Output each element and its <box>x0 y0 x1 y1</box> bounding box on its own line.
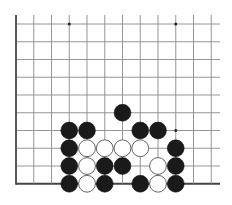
black-stone <box>132 122 149 139</box>
black-stone <box>79 122 96 139</box>
black-stone <box>61 140 78 157</box>
star-point-marker <box>174 129 177 132</box>
black-stone <box>167 175 184 192</box>
white-stone <box>79 175 96 192</box>
star-point-marker <box>68 23 71 26</box>
black-stone <box>132 175 149 192</box>
white-stone <box>150 175 167 192</box>
black-stone <box>96 158 113 175</box>
white-stone <box>79 140 96 157</box>
white-stone <box>150 158 167 175</box>
black-stone <box>167 140 184 157</box>
black-stone <box>61 158 78 175</box>
black-stone <box>61 175 78 192</box>
black-stone <box>61 122 78 139</box>
black-stone <box>150 122 167 139</box>
black-stone <box>114 158 131 175</box>
black-stone <box>114 104 131 121</box>
black-stone <box>96 175 113 192</box>
white-stone <box>114 140 131 157</box>
star-point-marker <box>174 23 177 26</box>
white-stone <box>79 158 96 175</box>
black-stone <box>167 158 184 175</box>
white-stone <box>96 140 113 157</box>
white-stone <box>132 140 149 157</box>
go-board <box>0 0 232 205</box>
